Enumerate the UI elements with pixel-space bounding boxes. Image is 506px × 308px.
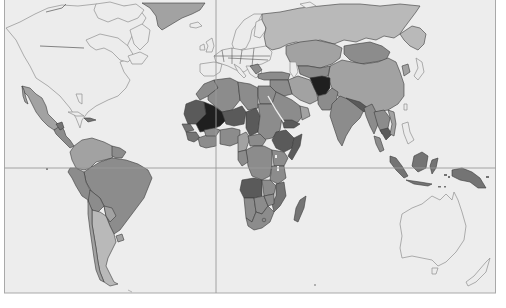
island-dot: [314, 284, 316, 286]
region-angola: [240, 178, 262, 198]
region-taiwan: [404, 104, 407, 110]
lake-malawi: [277, 166, 279, 171]
lake-victoria: [275, 155, 277, 158]
region-turkey: [258, 72, 290, 80]
world-choropleth-map: [0, 0, 506, 308]
region-nigeria: [220, 128, 240, 146]
